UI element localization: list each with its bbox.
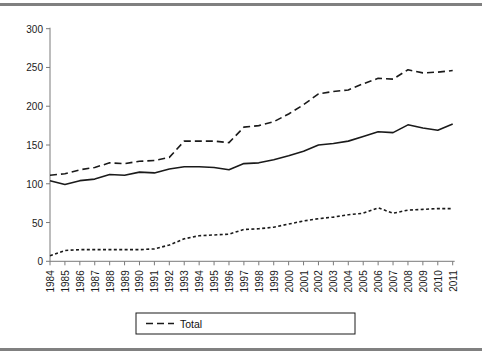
x-tick-label: 2000 [284,270,295,293]
x-tick-label: 1984 [45,270,56,293]
chart-figure: 050100150200250300 198419851986198719881… [0,0,482,356]
x-axis: 1984198519861987198819891990199119921993… [45,261,459,292]
x-tick-label: 1996 [224,270,235,293]
series-line-women [50,208,453,256]
x-tick-label: 1993 [179,270,190,293]
x-tick-label: 2008 [403,270,414,293]
x-tick-label: 1990 [134,270,145,293]
chart-legend: Total [136,313,355,334]
x-tick-label: 1989 [120,270,131,293]
y-tick-label: 250 [26,62,43,73]
series-lines [50,70,453,256]
y-tick-label: 100 [26,179,43,190]
legend-label-total: Total [180,318,202,330]
x-tick-label: 1986 [75,270,86,293]
x-tick-label: 1999 [269,270,280,293]
y-tick-label: 200 [26,101,43,112]
x-tick-label: 1998 [254,270,265,293]
x-tick-label: 2011 [448,270,459,292]
bottom-divider-rule [0,348,482,351]
y-tick-label: 150 [26,140,43,151]
x-tick-label: 2005 [358,270,369,293]
x-tick-label: 2010 [433,270,444,293]
x-tick-label: 1997 [239,270,250,293]
x-tick-label: 1985 [60,270,71,293]
y-tick-label: 50 [32,218,44,229]
y-tick-label: 300 [26,24,43,35]
series-line-total [50,70,453,175]
x-tick-label: 2004 [343,270,354,293]
x-tick-label: 1992 [164,270,175,293]
x-tick-label: 1994 [194,270,205,293]
x-tick-label: 1995 [209,270,220,293]
x-tick-label: 2002 [313,270,324,293]
y-axis: 050100150200250300 [26,24,50,268]
x-tick-label: 2007 [388,270,399,293]
line-chart: 050100150200250300 198419851986198719881… [0,0,482,356]
x-tick-label: 2009 [418,270,429,293]
x-tick-label: 1988 [105,270,116,293]
x-tick-label: 2003 [328,270,339,293]
series-line-men [50,124,453,184]
x-tick-label: 1991 [149,270,160,293]
x-tick-label: 1987 [90,270,101,293]
top-divider-rule [0,3,482,6]
y-tick-label: 0 [37,256,43,267]
x-tick-label: 2001 [299,270,310,293]
x-tick-label: 2006 [373,270,384,293]
